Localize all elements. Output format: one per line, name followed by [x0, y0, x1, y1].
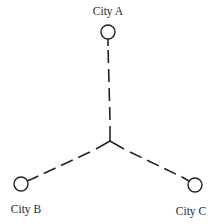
city-a-label: City A	[93, 5, 124, 18]
city-c-node	[188, 178, 202, 192]
road-junction-to-city-a	[108, 39, 110, 141]
city-a-node	[101, 25, 115, 39]
road-junction-to-city-b	[27, 141, 110, 181]
city-c-label: City C	[176, 205, 207, 218]
city-b-node	[14, 177, 28, 191]
city-network-diagram: City A City B City C	[0, 0, 214, 224]
city-b-label: City B	[11, 203, 42, 216]
road-junction-to-city-c	[110, 141, 189, 181]
